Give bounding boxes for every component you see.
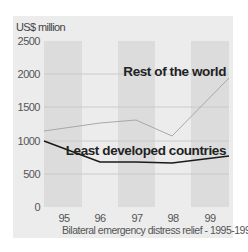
y-axis-label: US$ million [16, 21, 66, 33]
x-tick-98: 98 [167, 212, 179, 224]
y-tick-1000: 1000 [18, 135, 41, 147]
label-rest-of-world: Rest of the world [123, 64, 226, 79]
x-tick-96: 96 [94, 212, 106, 224]
y-tick-500: 500 [23, 168, 40, 180]
x-axis-caption: Bilateral emergency distress relief - 19… [62, 224, 248, 236]
x-tick-99: 99 [204, 212, 216, 224]
y-tick-0: 0 [34, 201, 40, 213]
y-tick-2000: 2000 [18, 68, 41, 80]
shaded-column-95 [44, 41, 82, 207]
x-tick-95: 95 [58, 212, 70, 224]
y-tick-2500: 2500 [18, 35, 41, 47]
label-least-developed: Least developed countries [66, 143, 226, 158]
y-tick-1500: 1500 [18, 101, 41, 113]
x-tick-97: 97 [131, 212, 143, 224]
line-chart: US$ million 2500 2000 1500 1000 500 0 Re… [0, 0, 248, 252]
